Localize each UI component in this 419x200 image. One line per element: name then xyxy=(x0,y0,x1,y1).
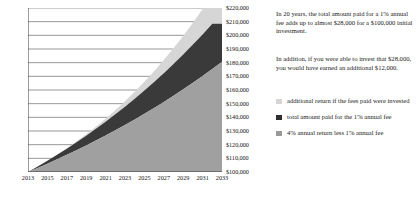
x-axis-tick-label: 2013 xyxy=(22,174,34,181)
y-axis-tick-label: $110,000 xyxy=(226,154,249,161)
y-axis-tick-label: $120,000 xyxy=(226,141,249,148)
y-axis-tick-label: $140,000 xyxy=(226,113,249,120)
x-axis-tick-label: 2033 xyxy=(216,174,228,181)
chart-page: $100,000$110,000$120,000$130,000$140,000… xyxy=(0,0,419,200)
legend-label-net-return: 4% annual return less 1% annual fee xyxy=(287,129,383,136)
annotation-paragraph-2: In addition, if you were able to invest … xyxy=(276,55,416,72)
annotation-paragraph-1: In 20 years, the total amount paid for a… xyxy=(276,10,416,36)
legend-item-additional-return: additional return if the fees paid were … xyxy=(276,97,419,106)
y-axis-tick-label: $170,000 xyxy=(226,72,249,79)
x-axis-tick-label: 2027 xyxy=(158,174,170,181)
x-axis-labels: 2013201520172019202120232025202720292031… xyxy=(0,174,250,188)
x-axis-tick-label: 2029 xyxy=(177,174,189,181)
y-axis-tick-label: $210,000 xyxy=(226,18,249,25)
x-axis-tick-label: 2025 xyxy=(138,174,150,181)
x-axis-tick-label: 2015 xyxy=(41,174,53,181)
y-axis-tick-label: $200,000 xyxy=(226,31,249,38)
y-axis-tick-label: $160,000 xyxy=(226,86,249,93)
legend-swatch-light-icon xyxy=(276,99,282,105)
stacked-area-chart: $100,000$110,000$120,000$130,000$140,000… xyxy=(0,0,270,200)
legend-swatch-medium-icon xyxy=(276,131,282,137)
legend-label-additional-return: additional return if the fees paid were … xyxy=(287,97,410,104)
plot-area xyxy=(28,8,222,172)
x-axis-tick-label: 2021 xyxy=(99,174,111,181)
legend-item-total-fee-paid: total amount paid for the 1% annual fee xyxy=(276,113,419,122)
x-axis-tick-label: 2017 xyxy=(61,174,73,181)
legend-label-total-fee-paid: total amount paid for the 1% annual fee xyxy=(287,113,392,120)
y-axis-tick-label: $130,000 xyxy=(226,127,249,134)
chart-legend: additional return if the fees paid were … xyxy=(276,97,419,145)
x-axis-tick-label: 2023 xyxy=(119,174,131,181)
legend-item-net-return: 4% annual return less 1% annual fee xyxy=(276,129,419,138)
x-axis-tick-label: 2019 xyxy=(80,174,92,181)
y-axis-tick-label: $190,000 xyxy=(226,45,249,52)
y-axis-labels: $100,000$110,000$120,000$130,000$140,000… xyxy=(226,0,270,200)
legend-swatch-dark-icon xyxy=(276,115,282,121)
plot-svg xyxy=(28,8,222,172)
y-axis-tick-label: $180,000 xyxy=(226,59,249,66)
side-panel: In 20 years, the total amount paid for a… xyxy=(276,0,419,200)
y-axis-tick-label: $220,000 xyxy=(226,4,249,11)
x-axis-tick-label: 2031 xyxy=(196,174,208,181)
y-axis-tick-label: $150,000 xyxy=(226,100,249,107)
